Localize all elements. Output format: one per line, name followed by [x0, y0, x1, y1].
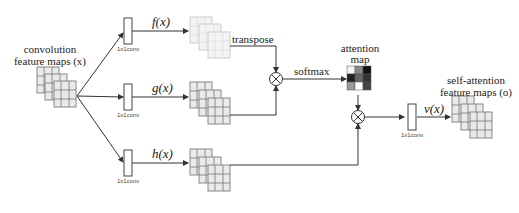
fn-label-v: v(x) [424, 101, 444, 117]
output-label-line2: feature maps (o) [432, 86, 519, 98]
f-feature-maps [190, 17, 230, 58]
transpose-label: transpose [232, 33, 274, 45]
conv-box-h [124, 150, 132, 176]
fn-label-f: f(x) [152, 14, 170, 30]
conv-box-v [408, 104, 416, 130]
attention-map [347, 66, 371, 90]
input-label-line1: convolution [6, 43, 94, 55]
attention-cell [347, 66, 355, 74]
g-feature-maps [190, 82, 230, 124]
conv-box-g [124, 84, 132, 110]
h-feature-maps [190, 149, 230, 191]
attention-cell [347, 74, 355, 82]
attention-cell [363, 74, 371, 82]
attention-cell [347, 82, 355, 90]
softmax-label: softmax [294, 65, 329, 77]
output-label-line1: self-attention [436, 74, 516, 86]
fn-label-g: g(x) [152, 80, 173, 96]
conv-label-h: 1x1conv [117, 178, 139, 184]
multiply-node-1 [270, 73, 283, 86]
attention-cell [363, 82, 371, 90]
attention-cell [355, 66, 363, 74]
conv-label-f: 1x1conv [117, 46, 139, 52]
conv-label-v: 1x1conv [401, 132, 423, 138]
input-label-line2: feature maps (x) [2, 55, 98, 67]
multiply-node-2 [352, 111, 365, 124]
attention-cell [355, 82, 363, 90]
attention-cell [355, 74, 363, 82]
conv-box-f [124, 18, 132, 44]
input-feature-maps [37, 67, 76, 107]
conv-label-g: 1x1conv [117, 112, 139, 118]
attention-label-line2: map [338, 53, 382, 65]
fn-label-h: h(x) [152, 146, 173, 162]
attention-cell [363, 66, 371, 74]
output-feature-maps [452, 96, 492, 138]
